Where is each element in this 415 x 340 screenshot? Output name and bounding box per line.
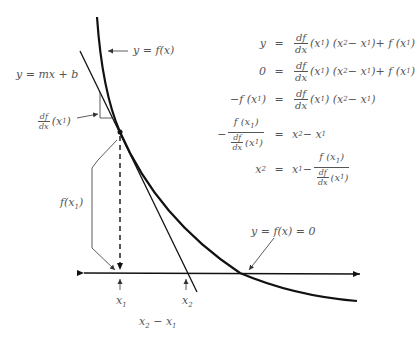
eq3-deriv: dfdx (294, 88, 308, 111)
t: ) (411, 37, 415, 50)
equation-3: −f (x1) = dfdx (x1) (x2 − x1) (196, 87, 375, 111)
t: ) (411, 65, 415, 78)
eq1-deriv: dfdx (294, 32, 308, 55)
x2-sub: 2 (188, 301, 192, 309)
eq2-df: df (295, 60, 307, 71)
t: ) (340, 151, 344, 162)
eq3-sign: = (266, 93, 292, 106)
t: − (217, 128, 226, 141)
eq4-lhs: − f (x1) dfdx(x1) (196, 116, 266, 152)
t: ) (371, 93, 375, 106)
t: dx (231, 142, 243, 152)
t: − x (348, 37, 367, 50)
eq4-rhs: x2 − x1 (292, 128, 326, 141)
t: − x (348, 65, 367, 78)
fx1-text: f(x (60, 196, 75, 209)
eq4-frac: f (x1) dfdx(x1) (228, 116, 264, 152)
t: (x (333, 93, 344, 106)
delta-sub1: 1 (172, 322, 176, 330)
eq4-den: dfdx(x1) (228, 132, 264, 152)
slope-label-arrow (77, 114, 98, 118)
slope-fraction: df dx (38, 112, 50, 131)
equation-4: − f (x1) dfdx(x1) = x2 − x1 (196, 117, 326, 151)
t: dfdx (317, 168, 329, 187)
eq2-deriv: dfdx (294, 60, 308, 83)
curve-label: y = f(x) (133, 45, 174, 56)
eq2-lhs: 0 (196, 65, 266, 78)
t: ) (255, 116, 259, 127)
t: f (x (319, 151, 335, 162)
eq1-rhs: dfdx (x1) (x2 − x1) + f (x1) (292, 32, 415, 55)
fx1-bracket (92, 140, 117, 270)
t: (x (245, 137, 255, 148)
t: + f (x (375, 37, 406, 50)
t: (x (331, 172, 341, 183)
x1-sub: 1 (122, 301, 126, 309)
eq5-rhs: x1 − f (x1) dfdx(x1) (292, 151, 351, 187)
tangent-label: y = mx + b (16, 69, 78, 80)
slope-den: dx (38, 121, 50, 131)
root-label-arrow (249, 238, 274, 270)
fx1-label: f(x1) (60, 197, 83, 211)
t: −f (x (230, 93, 257, 106)
t: ) (259, 137, 263, 148)
eq4-num: f (x1) (233, 116, 260, 132)
x-axis (84, 273, 360, 274)
eq5-den: dfdx(x1) (314, 167, 350, 187)
t: (x (310, 37, 321, 50)
x2-label: x2 (182, 295, 193, 309)
t: (x (333, 37, 344, 50)
t: ) (325, 93, 329, 106)
t: (x (333, 65, 344, 78)
t: ) (325, 65, 329, 78)
eq1-df: df (295, 32, 307, 43)
eq3-df: df (295, 88, 307, 99)
eq5-num: f (x1) (318, 151, 345, 167)
eq3-dx: dx (294, 99, 308, 111)
slope-label: df dx (x1) (36, 112, 71, 131)
delta-label: x2 − x1 (139, 316, 177, 330)
eq3-rhs: dfdx (x1) (x2 − x1) (292, 88, 375, 111)
t: df (318, 168, 328, 177)
slope-close: ) (67, 116, 71, 127)
t: − x (348, 93, 367, 106)
eq5-sign: = (266, 163, 292, 176)
t: (x (310, 93, 321, 106)
t: dfdx (231, 133, 243, 152)
eq5-lhs: x2 (196, 163, 266, 176)
eq1-lhs: y (196, 37, 266, 50)
eq3-lhs: −f (x1) (196, 93, 266, 106)
eq1-dx: dx (294, 43, 308, 55)
tangent-point (118, 130, 123, 135)
equation-1: y = dfdx (x1) (x2 − x1) + f (x1) (196, 31, 415, 55)
slope-arg: (x (52, 116, 63, 127)
fx1-close: ) (79, 196, 83, 209)
delta-rest: − x (150, 315, 172, 328)
t: f (x (234, 116, 250, 127)
t: df (232, 133, 242, 142)
t: ) (325, 37, 329, 50)
equation-2: 0 = dfdx (x1) (x2 − x1) + f (x1) (196, 59, 415, 83)
eq1-sign: = (266, 37, 292, 50)
t: − (303, 163, 312, 176)
t: ) (345, 172, 349, 183)
eq2-zero: 0 (259, 65, 266, 78)
t: (x (310, 65, 321, 78)
tangent-line (80, 51, 197, 292)
eq2-rhs: dfdx (x1) (x2 − x1) + f (x1) (292, 60, 415, 83)
eq5-frac: f (x1) dfdx(x1) (314, 151, 350, 187)
t: 1 (322, 130, 326, 138)
slope-num: df (39, 112, 49, 121)
t: − x (303, 128, 322, 141)
root-label: y = f(x) = 0 (251, 226, 316, 237)
eq4-sign: = (266, 128, 292, 141)
equation-5: x2 = x1 − f (x1) dfdx(x1) (196, 152, 351, 186)
eq2-dx: dx (294, 71, 308, 83)
eq2-sign: = (266, 65, 292, 78)
x1-label: x1 (116, 295, 127, 309)
t: + f (x (375, 65, 406, 78)
t: dx (317, 177, 329, 187)
